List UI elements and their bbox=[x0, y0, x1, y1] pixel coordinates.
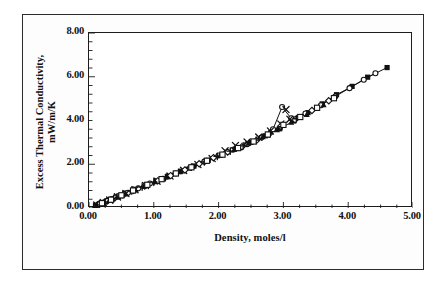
plot-canvas bbox=[89, 33, 413, 208]
y-axis-tick-labels: 8.006.004.002.000.00 bbox=[30, 32, 84, 207]
series-open-square bbox=[99, 96, 336, 206]
x-tick-label: 0.00 bbox=[79, 210, 97, 221]
x-axis-title: Density, moles/l bbox=[88, 232, 412, 243]
x-tick-label: 2.00 bbox=[209, 210, 227, 221]
plot-area bbox=[88, 32, 412, 207]
y-tick-label: 0.00 bbox=[38, 200, 84, 211]
x-axis-tick-labels: 0.001.002.003.004.005.00 bbox=[88, 210, 412, 226]
y-tick-label: 8.00 bbox=[38, 25, 84, 36]
axis-ticks bbox=[89, 33, 413, 208]
x-tick-label: 1.00 bbox=[144, 210, 162, 221]
figure-root: Excess Thermal Conductivity, mW/m/K 8.00… bbox=[0, 0, 441, 287]
x-tick-label: 3.00 bbox=[274, 210, 292, 221]
y-tick-label: 2.00 bbox=[38, 156, 84, 167]
y-tick-label: 4.00 bbox=[38, 113, 84, 124]
y-tick-label: 6.00 bbox=[38, 69, 84, 80]
x-tick-label: 5.00 bbox=[403, 210, 421, 221]
x-tick-label: 4.00 bbox=[338, 210, 356, 221]
